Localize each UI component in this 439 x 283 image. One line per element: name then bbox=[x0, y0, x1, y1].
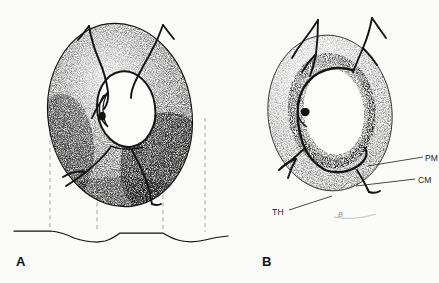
label-pm: PM bbox=[425, 153, 438, 163]
panel-b bbox=[260, 18, 423, 218]
label-b: B bbox=[338, 211, 343, 218]
panel-letter-a: A bbox=[16, 254, 26, 269]
label-cm: CM bbox=[418, 175, 432, 185]
panel-letter-b: B bbox=[262, 254, 272, 269]
figure-canvas bbox=[0, 0, 439, 283]
panel-a bbox=[14, 14, 228, 242]
label-th: TH bbox=[272, 207, 284, 217]
fiber bbox=[152, 204, 161, 205]
